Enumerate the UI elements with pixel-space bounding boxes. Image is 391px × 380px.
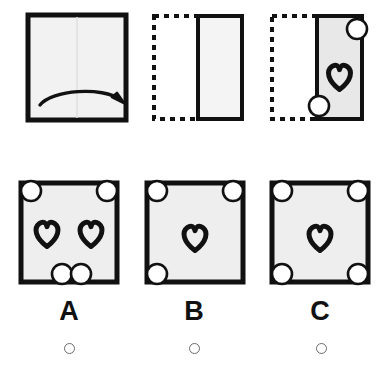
paper-folding-puzzle: A B C: [0, 0, 391, 380]
option-a-radio[interactable]: [64, 343, 75, 354]
option-a-label: A: [49, 296, 89, 326]
answers-layer: A B C: [0, 0, 391, 380]
option-c-radio[interactable]: [316, 343, 327, 354]
option-c-label: C: [300, 296, 340, 326]
option-b-label: B: [174, 296, 214, 326]
option-b-radio[interactable]: [189, 343, 200, 354]
